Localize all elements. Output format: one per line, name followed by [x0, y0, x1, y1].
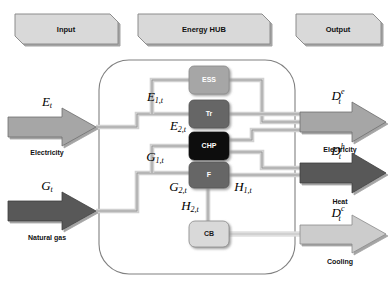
pipe-chp-heat-output — [229, 152, 300, 168]
label-E2t: E2,t — [169, 118, 187, 134]
component-chp-label: CHP — [202, 142, 217, 149]
component-f[interactable]: F — [189, 162, 229, 188]
label-H1t: H1,t — [233, 179, 252, 195]
component-ess-label: ESS — [202, 76, 216, 83]
component-chp[interactable]: CHP — [189, 132, 229, 160]
component-tr[interactable]: Tr — [189, 100, 229, 128]
arrow-heat-out-shape — [300, 153, 386, 193]
banner-hub-label: Energy HUB — [182, 25, 226, 34]
arrow-electricity-out — [300, 102, 386, 142]
caption-electricity-in: Electricity — [30, 149, 64, 157]
arrow-electricity-in-shape — [8, 108, 96, 146]
label-G2t: G2,t — [169, 179, 187, 195]
arrow-electricity-in — [8, 108, 96, 146]
label-Et: Et — [41, 94, 53, 110]
label-Dtc: Dct — [331, 204, 345, 223]
banner-output-label: Output — [326, 25, 351, 34]
label-H2t: H2,t — [180, 198, 199, 214]
arrow-gas-in — [8, 192, 96, 230]
label-G1t: G1,t — [146, 149, 164, 165]
caption-cooling-out: Cooling — [327, 258, 353, 266]
arrow-heat-out — [300, 153, 386, 193]
arrow-electricity-out-shape — [300, 102, 386, 142]
pipe-cb-to-cooling — [229, 232, 300, 236]
arrow-cooling-out — [300, 215, 386, 253]
label-E1t: E1,t — [146, 89, 164, 105]
label-Gt: Gt — [41, 178, 53, 194]
caption-gas-in: Natural gas — [28, 234, 66, 242]
component-tr-label: Tr — [206, 110, 213, 117]
pipe-chp-electricity-output — [229, 130, 300, 140]
component-ess[interactable]: ESS — [189, 66, 229, 94]
component-f-label: F — [207, 171, 212, 178]
arrow-gas-in-shape — [8, 192, 96, 230]
banner-output: Output — [296, 14, 381, 44]
arrow-cooling-out-shape — [300, 215, 386, 253]
component-cb[interactable]: CB — [189, 221, 229, 247]
component-cb-label: CB — [204, 230, 214, 237]
banner-input: Input — [15, 14, 118, 44]
banner-input-label: Input — [57, 25, 76, 34]
label-Dte: Det — [331, 87, 345, 106]
diagram-canvas: Input Energy HUB Output — [0, 0, 392, 296]
banner-hub: Energy HUB — [138, 14, 270, 44]
